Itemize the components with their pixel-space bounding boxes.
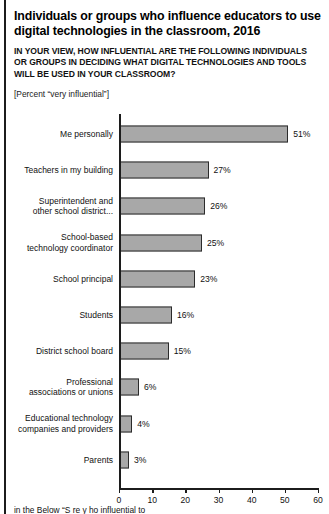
bar-value-label: 25% <box>207 238 224 248</box>
bar-value-label: 51% <box>293 129 310 139</box>
category-label-line: Professional <box>14 377 113 387</box>
bar <box>119 415 132 432</box>
x-axis-tick-label: 60 <box>313 495 323 505</box>
bar <box>119 198 205 215</box>
x-axis-tick-label: 40 <box>247 495 257 505</box>
bar <box>119 126 288 143</box>
bar-value-label: 26% <box>210 201 227 211</box>
category-label-line: School-based <box>14 232 113 242</box>
bar-value-label: 27% <box>214 165 231 175</box>
bar <box>119 162 209 179</box>
x-axis-tick-label: 20 <box>181 495 191 505</box>
bar-track: 23% <box>119 261 329 297</box>
chart-unit-note: [Percent “very influential”] <box>14 80 329 99</box>
bar <box>119 343 169 360</box>
bar-track: 51% <box>119 116 329 152</box>
x-axis-tick-label: 0 <box>117 495 122 505</box>
bar-row: Students16% <box>14 297 329 333</box>
category-label: School-basedtechnology coordinator <box>14 232 119 252</box>
x-axis-tick <box>252 488 253 493</box>
bar-track: 4% <box>119 406 329 442</box>
category-label-line: Educational technology <box>14 413 113 423</box>
category-label: Professionalassociations or unions <box>14 377 119 397</box>
category-label: Teachers in my building <box>14 165 119 175</box>
category-label-line: Parents <box>14 455 113 465</box>
category-label-line: Me personally <box>14 129 113 139</box>
x-axis-tick <box>219 488 220 493</box>
chart-footnote: in the Below “S re y ho influential to <box>14 505 329 514</box>
category-label-line: companies and providers <box>14 424 113 434</box>
bar-value-label: 16% <box>177 310 194 320</box>
category-label: School principal <box>14 274 119 284</box>
bar-value-label: 15% <box>174 346 191 356</box>
plot-area: Me personally51%Teachers in my building2… <box>14 112 329 500</box>
category-label: Superintendent andother school district.… <box>14 196 119 216</box>
figure-content: Individuals or groups who influence educ… <box>14 0 329 514</box>
x-axis-tick-label: 10 <box>147 495 157 505</box>
bar-row: District school board15% <box>14 333 329 369</box>
y-axis-line <box>119 114 121 488</box>
bar-track: 26% <box>119 188 329 224</box>
bar <box>119 379 139 396</box>
category-label: Me personally <box>14 129 119 139</box>
bar-row: School-basedtechnology coordinator25% <box>14 225 329 261</box>
x-axis-tick <box>185 488 186 493</box>
bar-track: 15% <box>119 333 329 369</box>
bar-row: Parents3% <box>14 442 329 478</box>
bar <box>119 234 202 251</box>
bar <box>119 270 195 287</box>
category-label-line: associations or unions <box>14 387 113 397</box>
category-label-line: Teachers in my building <box>14 165 113 175</box>
category-label: Educational technologycompanies and prov… <box>14 413 119 433</box>
bar-track: 6% <box>119 369 329 405</box>
category-label-line: School principal <box>14 274 113 284</box>
bar-row: School principal23% <box>14 261 329 297</box>
bar-value-label: 4% <box>137 419 149 429</box>
bar-track: 27% <box>119 152 329 188</box>
bar-row: Educational technologycompanies and prov… <box>14 406 329 442</box>
category-label: Parents <box>14 455 119 465</box>
x-axis-tick-label: 30 <box>214 495 224 505</box>
chart-subtitle: IN YOUR VIEW, HOW INFLUENTIAL ARE THE FO… <box>14 38 329 80</box>
bar-row: Me personally51% <box>14 116 329 152</box>
bar-track: 25% <box>119 225 329 261</box>
bar-row: Teachers in my building27% <box>14 152 329 188</box>
bar-row: Superintendent andother school district.… <box>14 188 329 224</box>
bar-track: 16% <box>119 297 329 333</box>
x-axis-tick <box>119 488 120 493</box>
category-label-line: Students <box>14 310 113 320</box>
category-label: District school board <box>14 346 119 356</box>
category-label-line: technology coordinator <box>14 243 113 253</box>
category-label-line: District school board <box>14 346 113 356</box>
category-label-line: other school district... <box>14 206 113 216</box>
bar-value-label: 6% <box>144 382 156 392</box>
bar-value-label: 3% <box>134 455 146 465</box>
category-label: Students <box>14 310 119 320</box>
bar-track: 3% <box>119 442 329 478</box>
x-axis-tick <box>152 488 153 493</box>
bar-rows: Me personally51%Teachers in my building2… <box>14 112 329 476</box>
chart-figure: Individuals or groups who influence educ… <box>0 0 329 514</box>
bar-row: Professionalassociations or unions6% <box>14 369 329 405</box>
bar-value-label: 23% <box>200 274 217 284</box>
bar <box>119 307 172 324</box>
chart-title: Individuals or groups who influence educ… <box>14 0 329 38</box>
x-axis-tick <box>318 488 319 493</box>
x-axis-tick <box>285 488 286 493</box>
x-axis-tick-label: 50 <box>280 495 290 505</box>
left-border-rule <box>4 0 6 514</box>
category-label-line: Superintendent and <box>14 196 113 206</box>
